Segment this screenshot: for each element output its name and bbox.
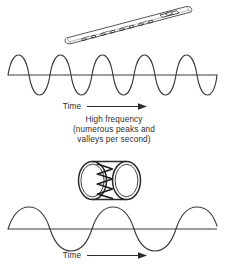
high-frequency-caption-line-2: (numerous peaks and [0,125,228,135]
high-frequency-caption-line-1: High frequency [0,115,228,125]
sound-frequency-figure: Time High frequency (numerous peaks and … [0,0,228,268]
top-time-axis-label: Time [0,102,186,112]
high-frequency-caption-line-3: valleys per second) [0,135,228,145]
flute-icon [65,6,192,43]
bottom-time-axis-label: Time [0,251,186,261]
low-frequency-waveform [8,207,217,251]
high-frequency-waveform [8,55,217,95]
drum-icon [79,162,141,200]
